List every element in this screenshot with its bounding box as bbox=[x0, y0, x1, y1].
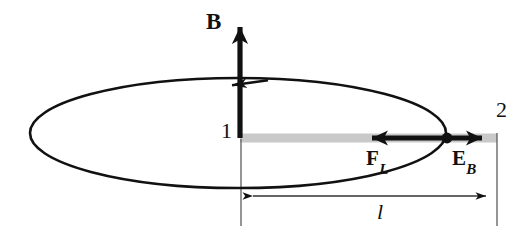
terminal-1-label: 1 bbox=[221, 120, 232, 142]
lorentz-force-symbol: F bbox=[366, 146, 379, 170]
induced-field-label: EB bbox=[452, 148, 476, 173]
induced-field-symbol: E bbox=[452, 146, 466, 170]
terminal-2-label: 2 bbox=[496, 99, 507, 121]
length-label: l bbox=[377, 201, 383, 223]
physics-diagram-figure: B 1 2 FL EB l bbox=[0, 0, 530, 232]
magnetic-field-label: B bbox=[206, 10, 221, 33]
charge-carrier-dot bbox=[442, 133, 453, 144]
lorentz-force-subscript: L bbox=[379, 161, 388, 177]
induced-field-subscript: B bbox=[466, 161, 476, 177]
lorentz-force-label: FL bbox=[366, 148, 388, 173]
diagram-canvas bbox=[0, 0, 530, 232]
